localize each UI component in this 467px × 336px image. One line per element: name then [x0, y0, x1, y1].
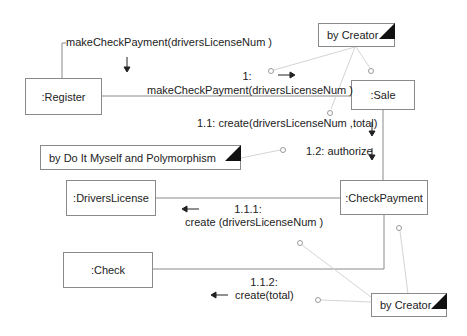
anchor-circle — [298, 241, 303, 246]
message-entry: makeCheckPayment(driversLicenseNum ) — [66, 36, 272, 49]
anchor-circle — [397, 226, 402, 231]
note-fold-icon — [379, 23, 395, 39]
anchor-circle — [269, 69, 274, 74]
message-1-number: 1: — [232, 70, 262, 83]
arrow-left-icon — [211, 292, 228, 298]
arrow-down-icon — [124, 57, 130, 72]
note-fold-icon — [431, 293, 447, 309]
message-1-2: 1.2: authorize — [306, 145, 373, 158]
anchor-circle — [281, 148, 286, 153]
arrow-left-icon — [182, 206, 199, 212]
arrow-right-icon — [278, 72, 295, 78]
object-register[interactable]: :Register — [25, 78, 102, 115]
message-1-1-2-number: 1.1.2: — [244, 276, 284, 289]
note-fold-icon — [225, 145, 241, 161]
message-1-1-2-text: create(total) — [235, 289, 294, 302]
anchor-circle — [328, 111, 333, 116]
anchor-circle — [316, 298, 321, 303]
message-1-1: 1.1: create(driversLicenseNum ,total) — [197, 117, 377, 130]
object-check[interactable]: :Check — [63, 252, 153, 288]
object-label: :CheckPayment — [345, 192, 423, 204]
message-1-text: makeCheckPayment(driversLicenseNum ) — [130, 84, 370, 97]
object-drivers-license[interactable]: :DriversLicense — [66, 180, 156, 216]
note-text: by Creator — [380, 299, 431, 311]
note-do-it-myself[interactable]: by Do It Myself and Polymorphism — [40, 145, 241, 170]
message-1-1-1-text: create (driversLicenseNum ) — [185, 216, 323, 229]
object-label: :Check — [91, 264, 125, 276]
note-top-by-creator[interactable]: by Creator — [318, 23, 395, 47]
object-check-payment[interactable]: :CheckPayment — [340, 180, 428, 215]
message-1-1-1-number: 1.1.1: — [228, 203, 268, 216]
object-label: :Sale — [370, 89, 395, 101]
object-label: :DriversLicense — [73, 192, 149, 204]
anchor-circle — [369, 69, 374, 74]
note-text: by Creator — [327, 29, 378, 41]
object-label: :Register — [41, 91, 85, 103]
note-bottom-by-creator[interactable]: by Creator — [371, 293, 447, 317]
note-text: by Do It Myself and Polymorphism — [49, 152, 216, 164]
